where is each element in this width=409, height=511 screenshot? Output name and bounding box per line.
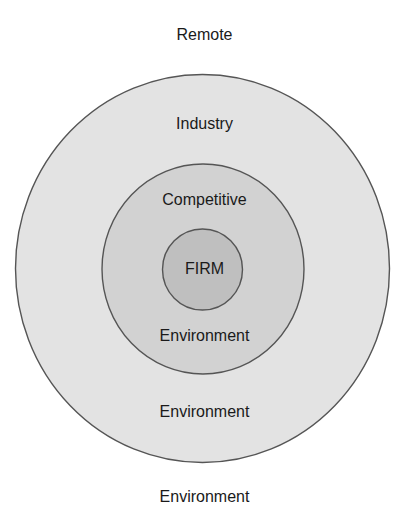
competitive-environment-label: Environment	[0, 326, 409, 346]
industry-label: Industry	[0, 114, 409, 134]
remote-label: Remote	[0, 25, 409, 45]
firm-label: FIRM	[0, 259, 409, 279]
competitive-label: Competitive	[0, 190, 409, 210]
industry-environment-label: Environment	[0, 402, 409, 422]
remote-environment-label: Environment	[0, 487, 409, 507]
concentric-circles	[0, 0, 409, 511]
environment-diagram: Remote Industry Competitive FIRM Environ…	[0, 0, 409, 511]
